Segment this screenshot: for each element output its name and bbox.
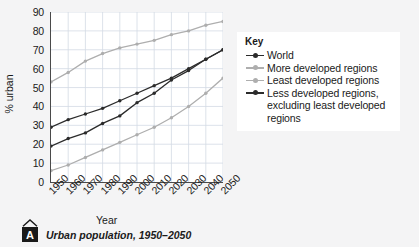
legend-title: Key [245, 36, 394, 48]
x-axis-ticks: 1950196019701980199020002010202020302040… [0, 184, 240, 224]
legend-marker-icon [245, 87, 265, 100]
y-axis-title: % urban [3, 61, 15, 127]
legend-marker-icon [245, 74, 265, 87]
legend-entry-label: World [267, 49, 294, 62]
legend-marker-icon [245, 62, 265, 75]
y-tick-label: 20 [33, 139, 44, 149]
chart-legend: Key WorldMore developed regionsLeast dev… [237, 32, 400, 131]
legend-entry-label: More developed regions [267, 62, 377, 75]
legend-entry-continuation: excluding least developed [245, 99, 394, 112]
y-tick-label: 90 [33, 7, 44, 17]
y-tick-label: 80 [33, 26, 44, 36]
legend-entry: More developed regions [245, 62, 394, 75]
caption-roof-icon [22, 219, 38, 227]
legend-entry: Less developed regions, [245, 87, 394, 100]
y-tick-label: 30 [33, 120, 44, 130]
legend-entry-label: Least developed regions [267, 74, 379, 87]
legend-entry: World [245, 49, 394, 62]
figure-urban-population: 0102030405060708090 % urban 195019601970… [0, 0, 419, 247]
y-tick-label: 70 [33, 45, 44, 55]
y-tick-label: 10 [33, 158, 44, 168]
chart-lines [51, 12, 223, 182]
legend-entry: Least developed regions [245, 74, 394, 87]
caption-badge: A [22, 227, 38, 242]
y-tick-label: 60 [33, 64, 44, 74]
legend-entries: WorldMore developed regionsLeast develop… [245, 49, 394, 124]
y-tick-label: 50 [33, 83, 44, 93]
figure-caption: A Urban population, 1950–2050 [22, 227, 191, 242]
y-tick-label: 40 [33, 101, 44, 111]
plot-area [50, 12, 223, 183]
legend-entry-continuation: regions [245, 112, 394, 125]
x-axis-title: Year [96, 214, 117, 226]
legend-marker-icon [245, 49, 265, 62]
legend-entry-label: Less developed regions, [267, 87, 379, 100]
caption-text: Urban population, 1950–2050 [46, 229, 191, 241]
